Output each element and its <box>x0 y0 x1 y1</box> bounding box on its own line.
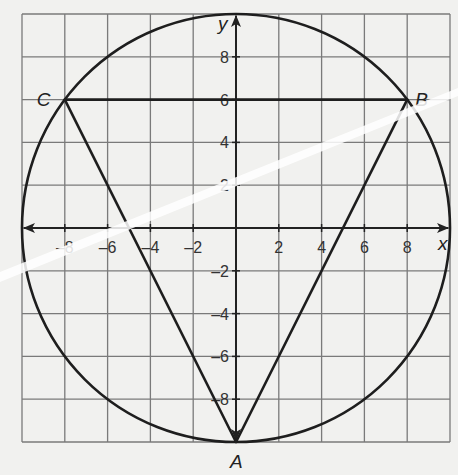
x-tick-label: –4 <box>142 239 160 256</box>
x-tick-label: 6 <box>360 239 369 256</box>
x-tick-label: –2 <box>184 239 202 256</box>
coordinate-diagram: –8–6–4–224688642–2–4–6–8xyABC <box>0 0 458 475</box>
y-axis-label: y <box>216 13 229 34</box>
y-tick-label: –2 <box>211 263 229 280</box>
x-axis-label: x <box>437 233 449 254</box>
y-tick-label: –4 <box>211 306 229 323</box>
x-tick-label: 4 <box>317 239 326 256</box>
y-tick-label: 8 <box>220 49 229 66</box>
y-tick-label: 4 <box>220 134 229 151</box>
y-tick-label: –6 <box>211 348 229 365</box>
point-label-A: A <box>229 451 243 472</box>
point-label-C: C <box>37 89 51 110</box>
x-tick-label: 2 <box>274 239 283 256</box>
x-tick-label: –6 <box>99 239 117 256</box>
x-tick-label: 8 <box>403 239 412 256</box>
plot-canvas: –8–6–4–224688642–2–4–6–8xyABC <box>0 0 458 475</box>
